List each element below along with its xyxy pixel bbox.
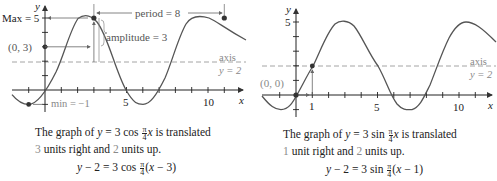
- right-caption-equation: y − 2 = 3 sin π4(x − 1): [326, 162, 423, 178]
- right-axis-label: axis: [470, 55, 487, 69]
- right-y-tick-5: 5: [285, 15, 291, 29]
- fraction-pi-over-4: π4: [387, 163, 391, 178]
- caption-text: units up.: [362, 145, 405, 157]
- left-axis-label: axis: [219, 51, 236, 65]
- right-tick-1: 1: [309, 99, 315, 113]
- fraction-pi-over-4: π4: [142, 126, 146, 141]
- caption-text: = 3 sin: [350, 128, 387, 140]
- caption-text: units up.: [119, 143, 162, 155]
- caption-text: is translated: [153, 126, 211, 138]
- right-caption-line-2: 1 unit right and 2 units up.: [283, 144, 405, 158]
- right-caption-line-1: The graph of y = 3 sin π4x is translated: [283, 127, 457, 143]
- caption-text: − 2 = 3 sin: [331, 163, 386, 175]
- left-amplitude-label: amplitude = 3: [106, 30, 167, 44]
- right-point-label: (0, 0): [260, 76, 284, 90]
- left-min-label: min = −1: [51, 97, 90, 111]
- left-second-max-point: [222, 15, 227, 20]
- right-point-1-2: [310, 64, 315, 69]
- left-period-label: period = 8: [135, 6, 180, 20]
- left-axis-eq-label: y = 2: [219, 64, 241, 78]
- left-caption-line-1: The graph of y = 3 cos π4x is translated: [35, 125, 211, 141]
- left-min-point: [26, 102, 31, 107]
- caption-text: The graph of: [283, 128, 345, 140]
- left-max-point: [91, 15, 96, 20]
- right-y-axis-label: y: [286, 2, 291, 16]
- caption-text: The graph of: [35, 126, 97, 138]
- caption-text: is translated: [399, 128, 457, 140]
- caption-text: unit right and: [289, 145, 357, 157]
- left-curve: [12, 15, 246, 104]
- right-tick-5: 5: [374, 100, 380, 114]
- left-x-axis-label: x: [239, 93, 244, 107]
- left-point-label: (0, 3): [8, 40, 32, 54]
- left-max-label: Max = 5: [2, 11, 39, 25]
- caption-text: units right and: [41, 143, 113, 155]
- right-axis-eq-label: y = 2: [470, 68, 492, 82]
- caption-text: = 3 cos: [102, 126, 141, 138]
- fraction-pi-over-4: π4: [140, 161, 144, 176]
- left-caption-line-2: 3 units right and 2 units up.: [35, 142, 161, 156]
- fraction-pi-over-4: π4: [389, 128, 393, 143]
- right-tick-10: 10: [453, 100, 464, 114]
- caption-text: − 2 = 3 cos: [82, 161, 139, 173]
- right-x-axis-label: x: [488, 98, 493, 112]
- left-tick-5: 5: [123, 95, 129, 109]
- left-caption-equation: y − 2 = 3 cos π4(x − 3): [77, 160, 176, 176]
- right-point-0-0: [293, 92, 298, 97]
- left-tick-10: 10: [203, 95, 214, 109]
